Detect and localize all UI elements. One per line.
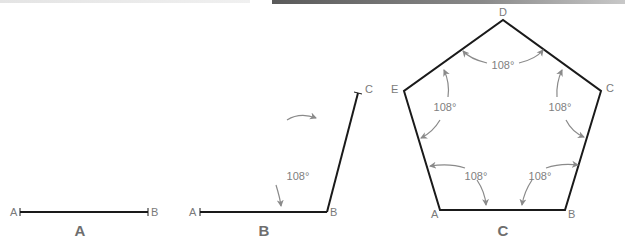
point-label-e: E xyxy=(391,83,398,95)
angle-arc-c-upper xyxy=(557,70,562,97)
angle-arc-e-upper xyxy=(444,70,449,97)
angle-arc-d-left xyxy=(463,51,487,63)
angle-label-b: 108° xyxy=(287,170,310,182)
angle-label-e: 108° xyxy=(434,101,457,113)
point-label-b: B xyxy=(568,208,575,220)
angle-arc-e-lower xyxy=(421,120,440,138)
point-label-a: A xyxy=(10,206,18,218)
point-label-a: A xyxy=(431,208,439,220)
figure-caption-b: B xyxy=(259,222,270,239)
angle-arc-lower xyxy=(276,185,281,206)
angle-label-b: 108° xyxy=(529,170,552,182)
point-label-a: A xyxy=(189,206,197,218)
point-label-b: B xyxy=(151,206,158,218)
point-label-b: B xyxy=(330,206,337,218)
figure-c: 108° 108° 108° 108° 108° A B C D E C xyxy=(391,6,614,239)
figure-b: 108° A B C B xyxy=(189,83,373,239)
angle-arc-a-left xyxy=(430,165,465,168)
angle-label-a: 108° xyxy=(465,170,488,182)
angle-label-c: 108° xyxy=(549,101,572,113)
angle-arc-a-lower xyxy=(477,180,486,205)
angle-arc-c-lower xyxy=(566,120,584,137)
angle-arc-d-right xyxy=(519,50,543,63)
pentagon-outline xyxy=(404,20,601,210)
geometry-diagram: A B A 108° A B C B 108° 108° 108° 108 xyxy=(0,0,625,246)
point-label-c: C xyxy=(606,82,614,94)
figure-a: A B A xyxy=(10,206,158,239)
point-label-d: D xyxy=(499,6,507,18)
angle-arc-b-lower xyxy=(522,180,532,205)
segment-bc xyxy=(327,93,358,212)
figure-caption-a: A xyxy=(75,222,86,239)
point-label-c: C xyxy=(365,83,373,95)
figure-caption-c: C xyxy=(498,222,509,239)
angle-arc-b-right xyxy=(546,164,578,168)
angle-arc-upper xyxy=(287,115,316,120)
angle-label-d: 108° xyxy=(492,59,515,71)
